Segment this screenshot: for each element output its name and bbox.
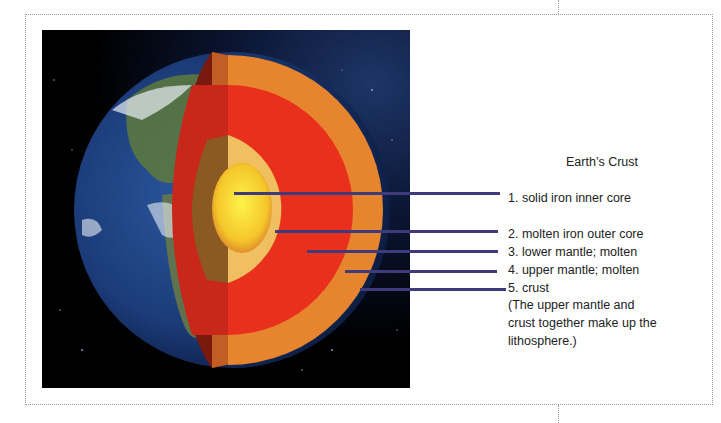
lithosphere-note: (The upper mantle and crust together mak…: [508, 296, 678, 350]
label-crust: 5. crust: [508, 279, 549, 297]
note-line: lithosphere.): [508, 332, 678, 350]
leader-line-upper-mantle: [345, 270, 497, 273]
note-line: (The upper mantle and: [508, 296, 678, 314]
leader-line-lower-mantle: [307, 250, 498, 253]
label-outer-core: 2. molten iron outer core: [508, 225, 644, 243]
label-lower-mantle: 3. lower mantle; molten: [508, 243, 637, 261]
leader-line-outer-core: [275, 230, 498, 233]
leader-line-crust: [360, 288, 506, 291]
note-line: crust together make up the: [508, 314, 678, 332]
diagram-title: Earth’s Crust: [566, 155, 638, 169]
earth-cutaway-image: [42, 30, 410, 388]
divider-tick-bottom: [558, 405, 559, 423]
earth-illustration: [42, 30, 410, 388]
label-upper-mantle: 4. upper mantle; molten: [508, 261, 639, 279]
divider-tick-top: [558, 0, 559, 14]
label-inner-core: 1. solid iron inner core: [508, 189, 631, 207]
leader-line-inner-core: [234, 192, 500, 195]
